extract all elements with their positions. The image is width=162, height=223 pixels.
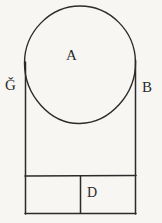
label-bottom-right-cell-d: D: [87, 186, 97, 200]
label-right-side-b: B: [142, 80, 152, 95]
label-left-side-g: Ǧ: [5, 78, 16, 93]
diagram-canvas: [0, 0, 162, 223]
geometry-diagram-figure: A Ǧ B D: [0, 0, 162, 223]
label-circle-a: A: [66, 48, 77, 63]
inscribed-circle: [25, 6, 136, 124]
